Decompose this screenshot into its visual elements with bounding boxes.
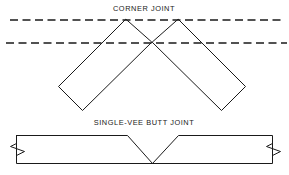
- butt-joint-figure: SINGLE-VEE BUTT JOINT: [11, 118, 281, 164]
- corner-joint-figure: CORNER JOINT: [6, 4, 287, 111]
- diagram-canvas: CORNER JOINT SINGLE-VEE BUTT JOINT: [0, 0, 289, 175]
- corner-joint-title: CORNER JOINT: [113, 4, 175, 13]
- corner-joint-right-plate: [153, 20, 246, 111]
- weld-joint-diagram: CORNER JOINT SINGLE-VEE BUTT JOINT: [0, 0, 289, 175]
- corner-joint-left-plate: [59, 20, 152, 111]
- butt-joint-title: SINGLE-VEE BUTT JOINT: [94, 118, 195, 127]
- right-break-symbol: [267, 144, 281, 156]
- left-break-symbol: [11, 144, 25, 156]
- butt-joint-plate-outline: [17, 136, 273, 164]
